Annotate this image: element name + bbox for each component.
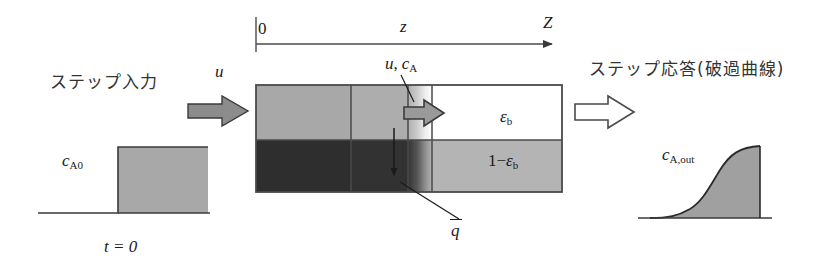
breakthrough-chart	[638, 146, 772, 218]
c-a-subscript: A	[409, 62, 417, 74]
inlet-velocity-label: u	[215, 63, 224, 80]
c-a0-variable: c	[62, 151, 70, 170]
step-input-caption: ステップ入力	[50, 74, 158, 91]
epsilon-subscript-2: b	[513, 159, 519, 171]
axis-position-label: z	[400, 18, 407, 35]
c-a-out-variable: c	[662, 145, 670, 164]
c-a-out-subscript: A,out	[670, 153, 695, 165]
axis-length-label: Z	[543, 14, 552, 31]
q-bar-symbol: q	[451, 222, 460, 239]
epsilon-symbol-2: ε	[506, 151, 513, 170]
band-fresh-fluid	[432, 85, 562, 140]
epsilon-subscript: b	[507, 115, 513, 127]
time-zero-label: t = 0	[104, 238, 137, 255]
inlet-flow-arrow	[188, 96, 248, 126]
c-a0-subscript: A0	[70, 159, 83, 171]
label-comma: ,	[394, 54, 398, 73]
band-saturated2-solid	[351, 140, 408, 192]
average-loading-label: q	[451, 222, 460, 239]
packed-column	[256, 85, 562, 192]
epsilon-symbol: ε	[500, 107, 507, 126]
band-saturated-solid	[256, 140, 351, 192]
c-a0-label: cA0	[62, 152, 83, 171]
outlet-flow-arrow	[575, 96, 634, 128]
band-saturated2-fluid	[351, 85, 408, 140]
flow-concentration-label: u, cA	[385, 55, 417, 74]
axis-origin-label: 0	[258, 20, 267, 37]
step-input-fill	[118, 147, 208, 213]
adsorption-column-figure: ステップ入力 ステップ応答(破過曲線) u cA0 t = 0 0 z Z u,…	[0, 0, 824, 271]
band-front-solid	[408, 140, 432, 192]
figure-graphics	[0, 0, 824, 271]
solid-fraction-label: 1−εb	[488, 152, 518, 171]
one-minus-text: 1−	[488, 151, 506, 170]
band-saturated-fluid	[256, 85, 351, 140]
c-a-out-label: cA,out	[662, 146, 694, 165]
void-fraction-label: εb	[500, 108, 512, 127]
step-response-caption: ステップ応答(破過曲線)	[589, 61, 784, 78]
u-variable: u	[385, 54, 394, 73]
